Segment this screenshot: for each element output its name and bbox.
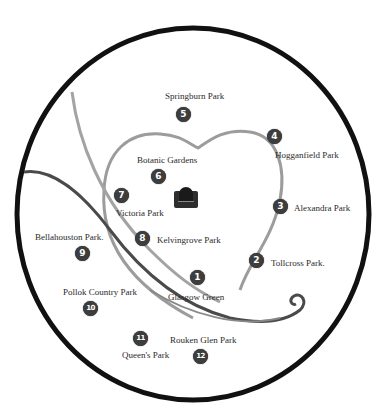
park-label-glasgow-green: Glasgow Green	[168, 292, 224, 302]
park-label-hogganfield: Hogganfield Park	[275, 150, 339, 160]
park-marker-4[interactable]: 4	[267, 129, 282, 144]
park-marker-1[interactable]: 1	[190, 270, 205, 285]
park-marker-8[interactable]: 8	[135, 231, 150, 246]
park-marker-9[interactable]: 9	[75, 246, 90, 261]
park-label-alexandra: Alexandra Park	[294, 203, 350, 213]
park-marker-11[interactable]: 11	[133, 331, 148, 346]
park-label-victoria: Victoria Park	[116, 208, 164, 218]
park-marker-10[interactable]: 10	[83, 301, 98, 316]
park-marker-3[interactable]: 3	[273, 199, 288, 214]
park-label-tollcross: Tollcross Park.	[271, 258, 325, 268]
park-label-bellahouston: Bellahouston Park.	[35, 232, 104, 242]
park-marker-2[interactable]: 2	[249, 253, 264, 268]
park-label-pollok: Pollok Country Park	[63, 287, 137, 297]
park-label-rouken-glen: Rouken Glen Park	[170, 335, 237, 345]
park-label-springburn: Springburn Park	[165, 91, 224, 101]
park-label-kelvingrove: Kelvingrove Park	[157, 235, 221, 245]
park-marker-6[interactable]: 6	[151, 169, 166, 184]
bandstand-icon	[174, 191, 198, 208]
park-marker-7[interactable]: 7	[114, 188, 129, 203]
park-marker-5[interactable]: 5	[176, 107, 191, 122]
park-marker-12[interactable]: 12	[193, 349, 208, 364]
park-label-botanic: Botanic Gardens	[137, 155, 197, 165]
park-label-queens: Queen's Park	[122, 350, 169, 360]
